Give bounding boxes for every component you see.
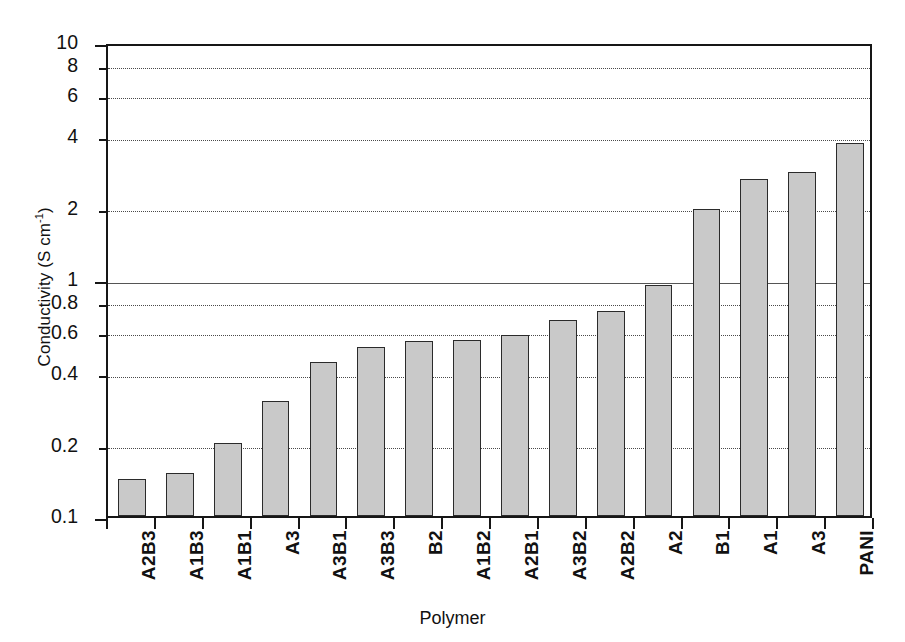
x-axis-tick-label: A2B3	[138, 530, 160, 620]
y-axis-tick	[99, 68, 108, 70]
x-axis-tick-label: A2B1	[521, 530, 543, 620]
x-axis-tick	[345, 518, 347, 529]
x-axis-tick-label: A3B2	[569, 530, 591, 620]
x-axis-tick	[202, 518, 204, 529]
bar	[214, 443, 242, 516]
x-axis-tick-label: A1	[760, 530, 782, 620]
y-axis-tick-label: 10	[0, 33, 78, 53]
y-axis-tick-label: 0.2	[0, 436, 78, 456]
x-axis-tick-label: A3B1	[329, 530, 351, 620]
x-axis-tick	[154, 518, 156, 529]
y-axis-tick-label: 0.6	[0, 323, 78, 343]
y-axis-tick-label: 8	[0, 56, 78, 76]
x-axis-tick	[393, 518, 395, 529]
y-axis-tick	[95, 282, 108, 284]
y-axis-tick	[99, 335, 108, 337]
bar	[166, 473, 194, 516]
bar	[740, 179, 768, 516]
x-axis-tick-label: A1B3	[186, 530, 208, 620]
x-axis-tick	[824, 518, 826, 529]
x-axis-tick-labels: A2B3A1B3A1B1A3A3B1A3B3B2A1B2A2B1A3B2A2B2…	[106, 530, 872, 610]
y-axis-tick-labels: 10864210.80.60.40.20.1	[0, 44, 98, 518]
bar	[788, 172, 816, 516]
chart-figure: Conductivity (S cm-1) 10864210.80.60.40.…	[0, 0, 905, 642]
y-axis-tick	[99, 305, 108, 307]
x-axis-tick-label: A2B2	[617, 530, 639, 620]
bar	[693, 209, 721, 516]
x-axis-tick	[633, 518, 635, 529]
x-axis-ticks	[106, 518, 872, 530]
y-axis-tick-label: 0.8	[0, 293, 78, 313]
x-axis-tick-label: A3B3	[377, 530, 399, 620]
x-axis-tick-label: PANI	[856, 530, 878, 620]
plot-area	[106, 44, 872, 518]
y-axis-tick-label: 6	[0, 86, 78, 106]
x-axis-tick	[681, 518, 683, 529]
x-axis-tick-label: A1B2	[473, 530, 495, 620]
x-axis-tick	[872, 518, 874, 529]
x-axis-tick-label: A2	[665, 530, 687, 620]
x-axis-tick	[489, 518, 491, 529]
y-axis-tick-label: 4	[0, 127, 78, 147]
y-axis-tick	[99, 139, 108, 141]
x-axis-tick-label: A3	[282, 530, 304, 620]
x-axis-tick	[776, 518, 778, 529]
x-axis-tick	[585, 518, 587, 529]
x-axis-tick-label: B1	[712, 530, 734, 620]
y-axis-tick	[99, 448, 108, 450]
y-axis-tick-label: 0.1	[0, 507, 78, 527]
y-axis-tick	[99, 98, 108, 100]
bar	[405, 341, 433, 516]
x-axis-tick	[106, 518, 108, 529]
bar	[453, 340, 481, 516]
bar	[118, 479, 146, 516]
x-axis-tick	[728, 518, 730, 529]
bar	[597, 311, 625, 516]
bar	[262, 401, 290, 516]
y-axis-tick-label: 2	[0, 199, 78, 219]
y-axis-tick-label: 0.4	[0, 364, 78, 384]
plot-inner	[108, 46, 870, 516]
x-axis-tick-label: A1B1	[234, 530, 256, 620]
x-axis-tick-label: B2	[425, 530, 447, 620]
x-axis-tick	[250, 518, 252, 529]
y-axis-tick-label: 1	[0, 270, 78, 290]
bar	[836, 143, 864, 516]
y-axis-tick	[99, 211, 108, 213]
x-axis-tick-label: A3	[808, 530, 830, 620]
bar	[310, 362, 338, 516]
bar	[357, 347, 385, 516]
bar	[549, 320, 577, 516]
x-axis-tick	[537, 518, 539, 529]
x-axis-title: Polymer	[0, 608, 905, 629]
y-axis-tick	[99, 376, 108, 378]
x-axis-tick	[441, 518, 443, 529]
x-axis-tick	[298, 518, 300, 529]
y-axis-tick	[95, 45, 108, 47]
bar-series	[108, 46, 870, 516]
bar	[645, 285, 673, 516]
bar	[501, 335, 529, 516]
